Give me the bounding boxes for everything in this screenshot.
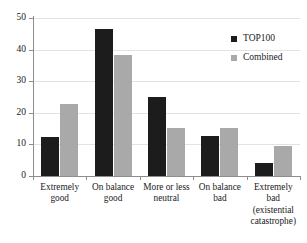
bar-chart: 01020304050 ExtremelygoodOn balancegoodM…: [0, 0, 307, 243]
category-label: More or lessneutral: [136, 182, 197, 205]
category-label-line: On balance: [92, 182, 134, 192]
category-label-line: Extremely: [254, 182, 293, 192]
bar-top100: [201, 136, 219, 176]
category-label: Extremelybad(existentialcatastrophe): [243, 182, 304, 227]
bar-top100: [255, 163, 273, 176]
category-label-line: bad: [267, 193, 280, 203]
bar-combined: [220, 128, 238, 176]
y-tick-mark: [29, 144, 33, 145]
legend-swatch-icon: [231, 36, 237, 42]
x-tick-mark: [33, 176, 34, 180]
category-label-line: (existential: [253, 205, 294, 215]
bar-top100: [95, 29, 113, 176]
category-label-line: good: [104, 193, 123, 203]
y-tick-label: 10: [17, 139, 27, 149]
y-tick-label: 40: [17, 45, 27, 55]
gridline: [33, 81, 300, 82]
x-tick-mark: [193, 176, 194, 180]
x-tick-mark: [140, 176, 141, 180]
y-tick-mark: [29, 18, 33, 19]
bar-combined: [114, 55, 132, 176]
legend: TOP100 Combined: [231, 31, 283, 69]
bar-top100: [148, 97, 166, 176]
legend-label: TOP100: [243, 34, 275, 44]
category-label: On balancebad: [189, 182, 250, 205]
bar-combined: [60, 104, 78, 176]
y-tick-mark: [29, 50, 33, 51]
category-label-line: More or less: [143, 182, 189, 192]
category-label-line: neutral: [154, 193, 180, 203]
category-label-line: On balance: [199, 182, 241, 192]
legend-item-combined[interactable]: Combined: [231, 50, 283, 65]
y-tick-label: 50: [17, 13, 27, 23]
category-label: On balancegood: [82, 182, 143, 205]
category-label: Extremelygood: [29, 182, 90, 205]
y-axis-line: [33, 16, 34, 177]
y-tick-label: 30: [17, 76, 27, 86]
x-tick-mark: [300, 176, 301, 180]
y-tick-mark: [29, 113, 33, 114]
bar-combined: [274, 146, 292, 176]
x-tick-mark: [86, 176, 87, 180]
bar-combined: [167, 128, 185, 176]
category-label-line: Extremely: [40, 182, 79, 192]
legend-item-top100[interactable]: TOP100: [231, 31, 283, 46]
x-tick-mark: [247, 176, 248, 180]
bar-top100: [41, 137, 59, 177]
gridline: [33, 18, 300, 19]
y-tick-label: 0: [21, 171, 26, 181]
y-tick-mark: [29, 81, 33, 82]
legend-label: Combined: [243, 53, 283, 63]
category-label-line: catastrophe): [251, 216, 296, 226]
legend-swatch-icon: [231, 55, 237, 61]
x-axis-line: [33, 176, 300, 177]
category-label-line: bad: [213, 193, 226, 203]
category-label-line: good: [50, 193, 69, 203]
y-tick-label: 20: [17, 108, 27, 118]
